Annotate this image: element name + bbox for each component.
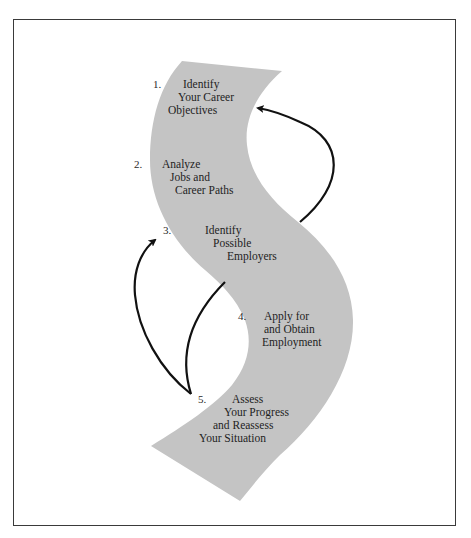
step-5-line-2: Your Progress xyxy=(224,406,289,419)
step-2-line-3: Career Paths xyxy=(175,184,233,197)
step-4-line-1: Apply for xyxy=(264,310,309,323)
step-5-number: 5. xyxy=(198,393,206,406)
step-1-line-3: Objectives xyxy=(168,104,217,117)
step-2-line-1: Analyze xyxy=(162,158,200,171)
step-1-line-1: Identify xyxy=(183,78,219,91)
step-4-number: 4. xyxy=(238,310,246,323)
step-4-line-2: and Obtain xyxy=(264,323,315,336)
step-1-line-2: Your Career xyxy=(178,91,234,104)
step-3-number: 3. xyxy=(163,224,171,237)
step-5-line-1: Assess xyxy=(232,393,263,406)
step-5-line-3: and Reassess xyxy=(213,419,273,432)
connector-step-5-to-band xyxy=(186,282,225,394)
step-2-line-2: Jobs and xyxy=(170,171,210,184)
step-5-line-4: Your Situation xyxy=(199,432,266,445)
step-3-line-1: Identify xyxy=(205,224,241,237)
career-path-diagram xyxy=(0,0,471,538)
step-3-line-3: Employers xyxy=(227,250,277,263)
arrow-to-step-3 xyxy=(135,240,191,394)
step-4-line-3: Employment xyxy=(262,336,321,349)
step-2-number: 2. xyxy=(134,158,142,171)
step-3-line-2: Possible xyxy=(213,237,251,250)
step-1-number: 1. xyxy=(153,78,161,91)
